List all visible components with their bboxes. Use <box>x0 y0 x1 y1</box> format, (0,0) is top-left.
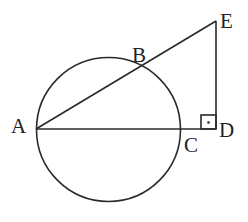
label-a: A <box>11 114 27 138</box>
geometry-diagram: A B C D E <box>0 0 248 222</box>
segment-ae <box>36 21 216 129</box>
label-c: C <box>184 133 198 157</box>
label-e: E <box>220 9 233 33</box>
label-d: D <box>219 118 234 142</box>
label-b: B <box>132 43 146 67</box>
right-angle-dot <box>207 121 210 124</box>
